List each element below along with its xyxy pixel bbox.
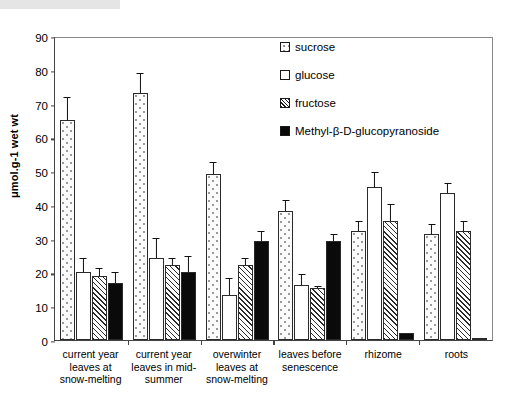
error-bar	[460, 221, 467, 231]
error-bar-stem	[172, 258, 173, 265]
error-bar-stem	[390, 204, 391, 221]
error-bar	[314, 286, 321, 288]
bar	[165, 265, 180, 340]
error-bar	[112, 272, 119, 282]
error-bar-cap	[387, 204, 394, 205]
bar	[294, 285, 309, 340]
scan-artifact	[0, 0, 120, 9]
error-bar	[330, 234, 337, 241]
error-bar-cap	[80, 258, 87, 259]
bar-slot	[60, 38, 75, 340]
error-bar	[242, 258, 249, 265]
y-tick-label: 60	[11, 133, 55, 145]
bar	[440, 193, 455, 340]
error-bar-stem	[333, 234, 334, 241]
x-axis-label: rhizome	[347, 348, 420, 386]
error-bar	[96, 268, 103, 276]
error-bar-cap	[355, 221, 362, 222]
error-bar-cap	[64, 97, 71, 98]
error-bar	[210, 162, 217, 174]
error-bar	[169, 258, 176, 265]
bar	[92, 276, 107, 341]
error-bar-stem	[358, 221, 359, 231]
error-bar-stem	[431, 224, 432, 234]
error-bar-cap	[153, 238, 160, 239]
bar-slot	[133, 38, 148, 340]
bar-slot	[181, 38, 196, 340]
legend-item: sucrose	[280, 33, 495, 61]
error-bar	[444, 183, 451, 193]
y-tick-mark	[51, 341, 55, 342]
x-axis-label: roots	[420, 348, 493, 386]
error-bar	[137, 73, 144, 94]
y-tick-label: 80	[11, 66, 55, 78]
error-bar-stem	[213, 162, 214, 174]
error-bar-stem	[229, 278, 230, 295]
x-axis-label: current year leaves at snow-melting	[54, 348, 127, 386]
y-tick-label: 40	[11, 201, 55, 213]
y-tick-label: 20	[11, 268, 55, 280]
y-tick-label: 10	[11, 302, 55, 314]
bar	[367, 187, 382, 340]
error-bar-cap	[137, 73, 144, 74]
error-bar-stem	[99, 268, 100, 276]
bar-slot	[222, 38, 237, 340]
error-bar	[387, 204, 394, 221]
error-bar-stem	[261, 231, 262, 241]
legend-item: fructose	[280, 89, 495, 117]
error-bar	[355, 221, 362, 231]
error-bar-cap	[371, 172, 378, 173]
x-axis-labels: current year leaves at snow-meltingcurre…	[54, 348, 493, 386]
bar-group	[55, 38, 128, 340]
legend-label: fructose	[295, 97, 336, 109]
bar-slot	[149, 38, 164, 340]
error-bar-stem	[463, 221, 464, 231]
bar	[254, 241, 269, 340]
bar-slot	[254, 38, 269, 340]
error-bar-stem	[188, 256, 189, 272]
error-bar-cap	[314, 286, 321, 287]
white-square-icon	[280, 70, 290, 80]
bar	[181, 272, 196, 340]
legend-label: Methyl-β-D-glucopyranoside	[295, 125, 439, 137]
bar	[310, 288, 325, 340]
bar	[60, 120, 75, 340]
error-bar-cap	[242, 258, 249, 259]
y-tick-label: 50	[11, 167, 55, 179]
bar	[326, 241, 341, 340]
bar	[206, 174, 221, 340]
error-bar	[258, 231, 265, 241]
error-bar-cap	[169, 258, 176, 259]
error-bar	[80, 258, 87, 272]
bar-slot	[206, 38, 221, 340]
y-tick-label: 0	[11, 336, 55, 348]
error-bar-stem	[115, 272, 116, 282]
bar-slot	[238, 38, 253, 340]
error-bar-cap	[428, 224, 435, 225]
error-bar-stem	[285, 200, 286, 211]
error-bar-stem	[140, 73, 141, 94]
error-bar-stem	[156, 238, 157, 258]
x-axis-label: overwinter leaves at snow-melting	[200, 348, 273, 386]
bar	[424, 234, 439, 340]
error-bar-cap	[112, 272, 119, 273]
y-tick-label: 30	[11, 235, 55, 247]
bar	[133, 93, 148, 340]
bar	[76, 272, 91, 340]
bar-group	[201, 38, 274, 340]
error-bar	[282, 200, 289, 211]
x-axis-label: current year leaves in mid-summer	[127, 348, 200, 386]
error-bar-stem	[83, 258, 84, 272]
error-bar-cap	[96, 268, 103, 269]
error-bar	[153, 238, 160, 258]
error-bar-cap	[210, 162, 217, 163]
bar-group	[128, 38, 201, 340]
bar	[238, 265, 253, 340]
bar	[108, 283, 123, 340]
bar-slot	[76, 38, 91, 340]
y-tick-label: 70	[11, 100, 55, 112]
bar	[399, 333, 414, 340]
legend-label: glucose	[295, 69, 335, 81]
bar	[383, 221, 398, 340]
error-bar-stem	[67, 97, 68, 121]
